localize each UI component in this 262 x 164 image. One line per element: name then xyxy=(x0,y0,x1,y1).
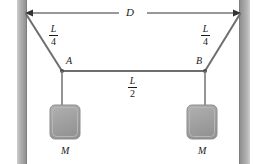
fraction-denominator: 4 xyxy=(49,36,58,47)
fraction-numerator: L xyxy=(201,24,210,35)
label-mass-right: M xyxy=(198,146,206,156)
fraction-numerator: L xyxy=(49,24,58,35)
label-distance-d: D xyxy=(126,7,134,18)
label-segment-middle: L 2 xyxy=(128,76,137,99)
rope-segment-right xyxy=(205,14,240,71)
fraction-denominator: 2 xyxy=(128,88,137,99)
label-segment-right: L 4 xyxy=(201,24,210,47)
left-wall xyxy=(17,0,27,164)
mass-block-right xyxy=(187,105,217,139)
fraction-numerator: L xyxy=(128,76,137,87)
label-point-a: A xyxy=(66,56,72,66)
label-point-b: B xyxy=(196,56,202,66)
right-wall xyxy=(239,0,250,164)
label-segment-left: L 4 xyxy=(49,24,58,47)
label-mass-left: M xyxy=(61,146,69,156)
physics-diagram: D L 4 L 4 L 2 A B M M xyxy=(0,0,262,164)
fraction-denominator: 4 xyxy=(201,36,210,47)
mass-block-left xyxy=(50,105,80,139)
